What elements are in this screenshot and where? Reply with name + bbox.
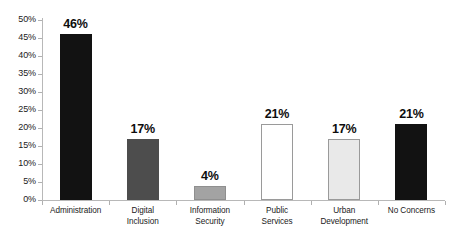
bar — [261, 124, 293, 200]
y-axis-tick-label: 40% — [18, 50, 36, 61]
y-axis-tick-label: 45% — [18, 32, 36, 43]
bar-value-label: 17% — [113, 122, 173, 136]
x-axis-tick-mark — [109, 201, 110, 205]
y-axis-tick-label: 50% — [18, 14, 36, 25]
y-axis-tick-mark — [38, 110, 42, 111]
x-axis-category-label: DigitalInclusion — [109, 206, 176, 227]
x-axis-category-label: Administration — [42, 206, 109, 217]
x-axis-category-label-line: Digital — [109, 206, 176, 217]
bar-value-label: 21% — [381, 107, 441, 121]
x-axis-category-label: PublicServices — [244, 206, 311, 227]
y-axis-tick-label: 25% — [18, 104, 36, 115]
x-axis-tick-mark — [176, 201, 177, 205]
x-axis-category-label: UrbanDevelopment — [311, 206, 378, 227]
x-axis-category-label-line: Public — [244, 206, 311, 217]
x-axis-tick-mark — [244, 201, 245, 205]
x-axis-category-label-line: No Concerns — [378, 206, 445, 217]
y-axis-tick-mark — [38, 38, 42, 39]
y-axis-tick-label: 15% — [18, 140, 36, 151]
y-axis-tick-label: 35% — [18, 68, 36, 79]
x-axis-category-label: No Concerns — [378, 206, 445, 217]
y-axis-tick-mark — [38, 92, 42, 93]
y-axis-tick-mark — [38, 74, 42, 75]
y-axis-tick-mark — [38, 146, 42, 147]
x-axis-category-label-line: Inclusion — [109, 217, 176, 228]
bar — [60, 34, 92, 200]
y-axis-line — [42, 18, 43, 201]
x-axis-category-label: InformationSecurity — [176, 206, 243, 227]
bar-value-label: 4% — [180, 169, 240, 183]
bar-value-label: 21% — [247, 107, 307, 121]
bar-chart: 50%45%40%35%30%25%20%15%10%5%0% 46%17%4%… — [0, 0, 454, 249]
bar — [328, 139, 360, 200]
x-axis-category-label-line: Urban — [311, 206, 378, 217]
bar-value-label: 17% — [314, 122, 374, 136]
x-axis-category-label-line: Security — [176, 217, 243, 228]
bar-value-label: 46% — [46, 17, 106, 31]
y-axis-tick-mark — [38, 128, 42, 129]
y-axis-tick-mark — [38, 56, 42, 57]
x-axis-tick-mark — [42, 201, 43, 205]
y-axis-tick-mark — [38, 182, 42, 183]
bar — [194, 186, 226, 200]
y-axis-tick-label: 30% — [18, 86, 36, 97]
x-axis-tick-mark — [378, 201, 379, 205]
y-axis-tick-label: 5% — [23, 176, 36, 187]
y-axis-tick-mark — [38, 164, 42, 165]
x-axis-tick-mark — [445, 201, 446, 205]
bar — [127, 139, 159, 200]
x-axis-tick-mark — [311, 201, 312, 205]
x-axis-category-label-line: Information — [176, 206, 243, 217]
y-axis-tick-label: 20% — [18, 122, 36, 133]
bar — [395, 124, 427, 200]
x-axis-category-label-line: Services — [244, 217, 311, 228]
y-axis-tick-label: 0% — [23, 194, 36, 205]
x-axis-category-label-line: Development — [311, 217, 378, 228]
y-axis-tick-mark — [38, 20, 42, 21]
y-axis-tick-label: 10% — [18, 158, 36, 169]
x-axis-category-label-line: Administration — [42, 206, 109, 217]
